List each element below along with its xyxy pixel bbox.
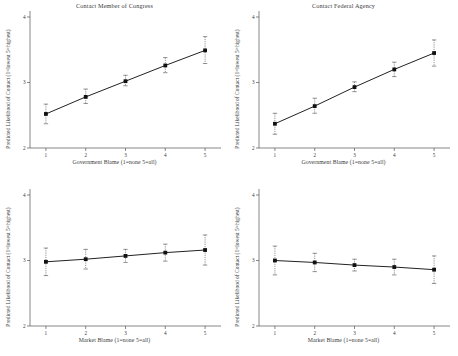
data-point-marker [84,95,88,99]
data-point-marker [353,85,357,89]
data-point-marker [313,261,317,265]
data-point-marker [44,112,48,116]
data-point-marker [273,259,277,263]
x-tick-label: 5 [433,152,436,158]
x-tick-label: 4 [164,330,167,336]
y-tick-label: 3 [23,257,26,263]
data-point-marker [392,265,396,269]
data-point-marker [163,251,167,255]
x-tick-label: 5 [433,330,436,336]
x-tick-label: 4 [393,330,396,336]
data-point-marker [203,49,207,53]
y-tick-label: 3 [23,79,26,85]
x-tick-label: 3 [124,152,127,158]
data-point-marker [203,248,207,252]
plot-area: 23412345 [0,0,229,178]
x-axis-label: Market Blame (1=none 5=all) [0,337,229,343]
x-axis-label: Government Blame (1=none 5=all) [0,159,229,165]
figure-panel-grid: Contact Member of CongressPredicted Like… [0,0,458,356]
x-tick-label: 1 [274,330,277,336]
figure-bottom-caption [0,351,458,356]
x-tick-label: 5 [204,330,207,336]
y-tick-label: 4 [23,14,26,20]
y-tick-label: 4 [252,14,255,20]
chart-panel-contact-federal-agency: Contact Federal AgencyPredicted Likeliho… [229,0,458,178]
x-tick-label: 3 [353,330,356,336]
data-point-marker [163,64,167,68]
data-point-marker [44,260,48,264]
x-tick-label: 1 [45,152,48,158]
y-tick-label: 4 [23,192,26,198]
data-point-marker [392,68,396,72]
y-tick-label: 2 [23,323,26,329]
data-point-marker [432,268,436,272]
x-tick-label: 5 [204,152,207,158]
y-tick-label: 2 [252,323,255,329]
x-axis-label: Government Blame (1=none 5=all) [229,159,458,165]
data-point-marker [84,257,88,261]
x-tick-label: 2 [313,330,316,336]
chart-panel-contact-member-of-congress: Contact Member of CongressPredicted Like… [0,0,229,178]
data-point-marker [124,254,128,258]
x-tick-label: 4 [393,152,396,158]
plot-area: 23412345 [229,178,458,356]
data-point-marker [353,263,357,267]
x-tick-label: 1 [45,330,48,336]
y-tick-label: 4 [252,192,255,198]
plot-area: 23412345 [229,0,458,178]
x-tick-label: 2 [313,152,316,158]
x-axis-label: Market Blame (1=none 5=all) [229,337,458,343]
data-point-marker [124,79,128,83]
y-tick-label: 2 [23,145,26,151]
x-tick-label: 4 [164,152,167,158]
x-tick-label: 3 [124,330,127,336]
y-tick-label: 3 [252,257,255,263]
data-point-marker [313,104,317,108]
x-tick-label: 2 [84,152,87,158]
chart-panel-market-blame-federal-agency: Predicted Likelihood of Contact (1=lowes… [229,178,458,356]
x-tick-label: 1 [274,152,277,158]
x-tick-label: 2 [84,330,87,336]
y-tick-label: 3 [252,79,255,85]
y-tick-label: 2 [252,145,255,151]
chart-panel-market-blame-member-of-congress: Predicted Likelihood of Contact (1=lowes… [0,178,229,356]
data-point-marker [273,122,277,126]
plot-area: 23412345 [0,178,229,356]
data-point-marker [432,51,436,55]
x-tick-label: 3 [353,152,356,158]
